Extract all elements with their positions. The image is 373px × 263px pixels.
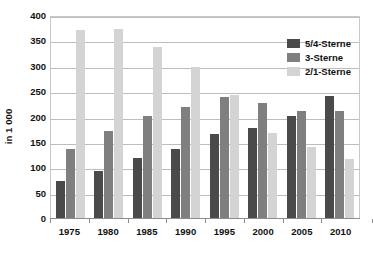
legend-swatch-icon xyxy=(287,67,300,76)
bar-group xyxy=(205,17,244,218)
x-axis-tick-labels: 19751980198519901995200020052010 xyxy=(50,226,360,242)
legend-item: 2/1-Sterne xyxy=(287,67,351,77)
y-axis-tick-label: 150 xyxy=(14,138,46,148)
x-axis-tick-cell xyxy=(205,219,244,224)
legend-swatch-icon xyxy=(287,53,300,62)
y-axis-tick-label: 400 xyxy=(14,11,46,21)
bar xyxy=(171,149,180,218)
bar xyxy=(230,95,239,218)
x-axis-tick-cell xyxy=(128,219,167,224)
bar xyxy=(66,149,75,218)
x-axis-tick-mark xyxy=(166,219,167,223)
x-axis-tick-cell xyxy=(89,219,128,224)
bar-group xyxy=(128,17,167,218)
x-axis-tick-label: 2005 xyxy=(283,226,322,242)
x-axis-tick-cell xyxy=(244,219,283,224)
x-axis-tick-cell xyxy=(166,219,205,224)
bar xyxy=(56,181,65,218)
plot-area: 5/4-Sterne3-Sterne2/1-Sterne xyxy=(50,16,360,219)
chart-legend: 5/4-Sterne3-Sterne2/1-Sterne xyxy=(287,39,351,77)
x-axis-tick-label: 1995 xyxy=(205,226,244,242)
bar xyxy=(104,131,113,218)
legend-item: 3-Sterne xyxy=(287,53,351,63)
y-axis-tick-label: 350 xyxy=(14,37,46,47)
bar xyxy=(220,97,229,218)
x-axis-tick-label: 2000 xyxy=(244,226,283,242)
x-axis-tick-label: 1975 xyxy=(50,226,89,242)
bar xyxy=(143,116,152,218)
y-axis-tick-labels: 050100150200250300350400 xyxy=(14,16,46,219)
bar xyxy=(268,133,277,218)
bar-group xyxy=(244,17,283,218)
y-axis-tick-label: 100 xyxy=(14,164,46,174)
bar xyxy=(287,116,296,218)
x-axis-tick-cell xyxy=(321,219,360,224)
x-axis-tick-cell xyxy=(283,219,322,224)
y-axis-tick-label: 50 xyxy=(14,189,46,199)
bar xyxy=(191,67,200,218)
x-axis-tick-label: 2010 xyxy=(321,226,360,242)
x-axis-tick-mark xyxy=(89,219,90,223)
bar xyxy=(248,128,257,218)
bar xyxy=(153,47,162,218)
x-axis-tick-label: 1990 xyxy=(166,226,205,242)
x-axis-tick-mark xyxy=(244,219,245,223)
bar xyxy=(114,29,123,218)
bar xyxy=(307,147,316,218)
bar-group xyxy=(167,17,206,218)
bar-chart: in 1 000 050100150200250300350400 5/4-St… xyxy=(0,0,373,263)
bar xyxy=(94,171,103,218)
x-axis-tick-cell xyxy=(50,219,89,224)
x-axis-tick-mark xyxy=(205,219,206,223)
bar xyxy=(325,96,334,218)
y-axis-tick-label: 300 xyxy=(14,62,46,72)
y-axis-title-text: in 1 000 xyxy=(4,108,15,144)
legend-label: 3-Sterne xyxy=(305,53,343,63)
bar xyxy=(133,158,142,218)
x-axis-tick-mark xyxy=(128,219,129,223)
x-axis-tick-mark xyxy=(50,219,51,223)
bar-group xyxy=(90,17,129,218)
x-axis-tick-label: 1980 xyxy=(89,226,128,242)
x-axis-tick-label: 1985 xyxy=(128,226,167,242)
bar xyxy=(181,107,190,218)
bar xyxy=(345,159,354,218)
y-axis-tick-label: 0 xyxy=(14,214,46,224)
legend-swatch-icon xyxy=(287,39,300,48)
bar-group xyxy=(51,17,90,218)
bar xyxy=(210,134,219,218)
y-axis-tick-label: 250 xyxy=(14,87,46,97)
legend-label: 5/4-Sterne xyxy=(305,39,351,49)
legend-label: 2/1-Sterne xyxy=(305,67,351,77)
bar xyxy=(76,30,85,218)
bar xyxy=(297,111,306,218)
legend-item: 5/4-Sterne xyxy=(287,39,351,49)
x-axis-tick-mark xyxy=(283,219,284,223)
x-axis-ticks xyxy=(50,219,360,224)
bar xyxy=(335,111,344,218)
y-axis-tick-label: 200 xyxy=(14,113,46,123)
bar xyxy=(258,103,267,218)
x-axis-tick-mark xyxy=(321,219,322,223)
